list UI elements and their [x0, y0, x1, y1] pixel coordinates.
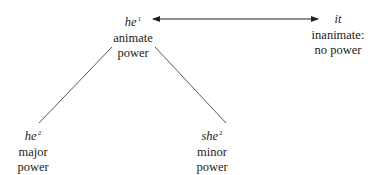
node-line: minor	[187, 145, 237, 161]
node-line: animate	[104, 31, 162, 47]
pronoun-label: she	[201, 129, 218, 143]
edge-he1-he2	[39, 47, 112, 123]
pronoun-label: he	[25, 129, 37, 143]
node-line: inanimate:	[308, 28, 368, 44]
edge-he1-she2	[155, 47, 226, 123]
node-line: power	[187, 160, 237, 175]
superscript-label: 1	[138, 15, 142, 23]
node-it: it inanimate: no power	[308, 12, 368, 59]
superscript-label: 2	[38, 129, 42, 137]
node-line: major	[8, 145, 58, 161]
superscript-label: 2	[219, 129, 223, 137]
node-he1: he1 animate power	[104, 12, 162, 62]
node-line: power	[104, 46, 162, 62]
node-he2: he2 major power	[8, 126, 58, 175]
node-she2: she2 minor power	[187, 126, 237, 175]
node-line: no power	[308, 43, 368, 59]
pronoun-label: it	[335, 12, 342, 26]
pronoun-label: he	[125, 15, 137, 29]
node-line: power	[8, 160, 58, 175]
